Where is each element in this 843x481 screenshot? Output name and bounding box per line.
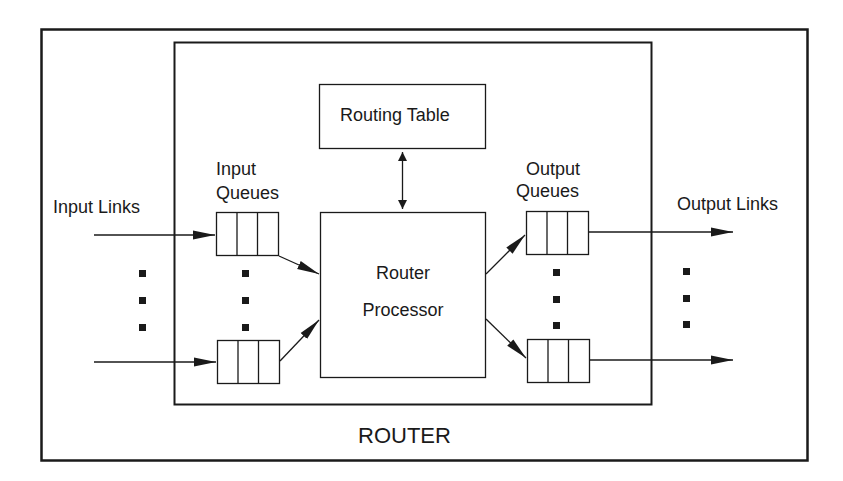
output-queues-label-line1: Output xyxy=(526,158,580,180)
output-links-label: Output Links xyxy=(677,193,778,215)
input-queue-bottom xyxy=(218,341,280,384)
router-outline xyxy=(41,30,386,221)
output-queue-top xyxy=(527,212,589,255)
router-container xyxy=(42,30,808,461)
processor-to-output-queue-top-arrow xyxy=(486,235,525,274)
router-processor-label-line2: Processor xyxy=(320,299,486,321)
input-queues-ellipsis xyxy=(242,270,249,331)
router-label: ROUTER xyxy=(358,423,451,449)
router-processor-label-line1: Router xyxy=(320,262,486,284)
processor-to-output-queue-bottom-arrow xyxy=(486,319,526,358)
input-links-ellipsis xyxy=(139,270,146,331)
router-diagram xyxy=(0,0,843,481)
output-queues-label-line2: Queues xyxy=(516,180,579,202)
router-inner-box xyxy=(175,43,652,405)
router-outer-box xyxy=(42,30,387,221)
input-queue-bottom-to-processor-arrow xyxy=(280,320,319,361)
output-queues-ellipsis xyxy=(553,269,560,329)
routing-table-label: Routing Table xyxy=(340,104,450,126)
output-links-ellipsis xyxy=(683,268,690,328)
input-queue-top xyxy=(217,213,279,256)
input-queues-label-line1: Input xyxy=(216,158,256,180)
router-box xyxy=(42,30,387,221)
input-links-label: Input Links xyxy=(53,196,140,218)
router-processor-box xyxy=(321,213,486,378)
input-queue-top-to-processor-arrow xyxy=(279,256,319,274)
output-queue-bottom xyxy=(528,340,590,383)
input-queues-label-line2: Queues xyxy=(216,182,279,204)
